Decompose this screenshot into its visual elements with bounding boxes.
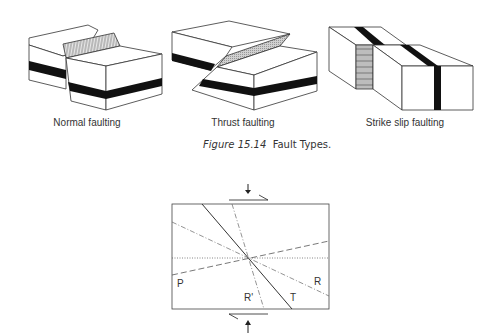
figure-caption: Figure 15.14 Fault Types. [203, 139, 331, 150]
strike-slip-faulting-label: Strike slip faulting [350, 117, 460, 128]
figure-title: Fault Types. [273, 139, 332, 150]
thrust-faulting-label: Thrust faulting [193, 117, 293, 128]
label-p: P [177, 278, 184, 289]
normal-fault-block [29, 25, 162, 110]
figure-number: Figure 15.14 [203, 139, 266, 150]
strike-slip-fault-block [329, 27, 473, 110]
riedel-shear-diagram [172, 184, 329, 333]
normal-faulting-label: Normal faulting [37, 117, 137, 128]
thrust-fault-block [172, 21, 317, 110]
label-r-prime: R' [244, 292, 253, 303]
top-shear-arrow [229, 195, 268, 200]
label-r: R [314, 276, 321, 287]
fault-diagram-canvas [0, 0, 498, 333]
bottom-shear-arrow [229, 314, 268, 319]
label-t: T [290, 292, 296, 303]
r-shear-line [172, 222, 329, 296]
